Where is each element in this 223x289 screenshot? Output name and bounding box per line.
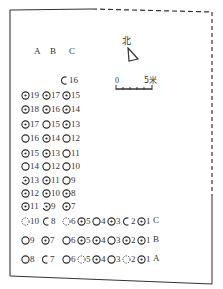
post-hole-marker: 11 <box>21 201 39 212</box>
row-label-c: C <box>153 216 159 225</box>
post-hole-number: 12 <box>51 162 60 171</box>
post-hole-marker: 2 <box>122 216 136 227</box>
post-hole-number: 2 <box>131 236 136 245</box>
post-hole-number: 2 <box>131 255 136 264</box>
post-hole-marker: 3 <box>107 235 121 246</box>
post-hole-marker: 12 <box>21 188 39 199</box>
post-hole-dotted-icon <box>21 105 30 114</box>
post-hole-number: 5 <box>86 217 91 226</box>
post-hole-dotted-icon <box>42 134 51 143</box>
post-hole-dotted-icon <box>21 91 30 100</box>
post-hole-number: 15 <box>51 120 60 129</box>
post-hole-number: 3 <box>116 236 121 245</box>
post-hole-marker: 4 <box>92 254 106 265</box>
post-hole-number: 6 <box>71 255 76 264</box>
post-hole-empty-icon <box>62 162 71 171</box>
scale-bar <box>115 84 155 92</box>
post-hole-marker: 1 <box>137 254 151 265</box>
post-hole-number: 5 <box>86 255 91 264</box>
post-hole-marker: 6 <box>62 254 76 265</box>
post-hole-dotted-icon <box>92 255 101 264</box>
row-label-a: A <box>153 254 160 263</box>
post-hole-partial-icon <box>60 76 69 85</box>
post-hole-empty-icon <box>21 255 30 264</box>
post-hole-marker: 13 <box>62 119 80 130</box>
north-label: 北 <box>122 37 131 46</box>
post-hole-marker: 17 <box>42 90 60 101</box>
post-hole-marker: 1 <box>137 216 151 227</box>
post-hole-partial-icon <box>42 217 51 226</box>
post-hole-empty-icon <box>21 162 30 171</box>
post-hole-marker: 7 <box>62 201 76 212</box>
post-hole-empty-icon <box>62 236 71 245</box>
post-hole-number: 6 <box>71 217 76 226</box>
post-hole-number: 10 <box>51 189 60 198</box>
post-hole-marker: 10 <box>62 161 80 172</box>
post-hole-empty-icon <box>107 255 116 264</box>
post-hole-number: 18 <box>30 105 39 114</box>
post-hole-marker: 11 <box>42 175 60 186</box>
post-hole-empty-icon <box>62 134 71 143</box>
post-hole-empty-icon <box>21 236 30 245</box>
post-hole-number: 11 <box>71 149 80 158</box>
post-hole-marker: 5 <box>77 254 91 265</box>
post-hole-number: 12 <box>30 189 39 198</box>
post-hole-marker: 4 <box>92 216 106 227</box>
post-hole-number: 6 <box>71 236 76 245</box>
post-hole-dotted-icon <box>42 105 51 114</box>
post-hole-dotted-icon <box>77 236 86 245</box>
post-hole-dotted-icon <box>137 255 146 264</box>
post-hole-empty-icon <box>21 134 30 143</box>
post-hole-marker: 10 <box>21 216 39 227</box>
post-hole-number: 10 <box>71 162 80 171</box>
post-hole-number: 17 <box>30 120 39 129</box>
post-hole-marker: 12 <box>62 133 80 144</box>
post-hole-number: 7 <box>50 255 55 264</box>
post-hole-number: 13 <box>51 149 60 158</box>
post-hole-empty-icon <box>42 162 51 171</box>
post-hole-dotted-icon <box>122 236 131 245</box>
post-hole-marker: 4 <box>92 235 106 246</box>
post-hole-empty-icon <box>62 176 71 185</box>
post-hole-dotted-icon <box>137 217 146 226</box>
post-hole-dashed-icon <box>77 255 86 264</box>
post-hole-number: 4 <box>101 217 106 226</box>
post-hole-marker: 15 <box>42 119 60 130</box>
post-hole-number: 1 <box>146 255 151 264</box>
post-hole-partial-icon <box>122 217 131 226</box>
post-hole-dotted-icon <box>62 189 71 198</box>
column-header-b: B <box>50 47 56 56</box>
post-hole-number: 9 <box>30 236 35 245</box>
column-header-a: A <box>34 47 41 56</box>
post-hole-number: 5 <box>86 236 91 245</box>
post-hole-marker: 17 <box>21 119 39 130</box>
post-hole-number: 2 <box>131 217 136 226</box>
post-hole-marker: 13 <box>42 148 60 159</box>
post-hole-dotted-icon <box>62 202 71 211</box>
post-hole-marker: 8 <box>42 216 56 227</box>
post-hole-number: 1 <box>146 236 151 245</box>
post-hole-marker: 12 <box>42 161 60 172</box>
post-hole-number: 13 <box>71 120 80 129</box>
post-hole-number: 16 <box>69 76 78 85</box>
post-hole-marker: 1 <box>137 235 151 246</box>
post-hole-number: 1 <box>146 217 151 226</box>
post-hole-marker: 3 <box>107 216 121 227</box>
post-hole-dotted-icon <box>77 217 86 226</box>
post-hole-number: 11 <box>51 176 60 185</box>
post-hole-marker: 18 <box>21 104 39 115</box>
post-hole-empty-icon <box>107 236 116 245</box>
post-hole-dotted-icon <box>41 236 50 245</box>
post-hole-marker: 14 <box>42 133 60 144</box>
post-hole-broken-dotted-icon <box>21 176 30 185</box>
post-hole-marker: 7 <box>41 235 55 246</box>
post-hole-marker: 7 <box>41 254 55 265</box>
post-hole-number: 11 <box>30 202 39 211</box>
post-hole-number: 9 <box>51 202 56 211</box>
post-hole-marker: 5 <box>77 216 91 227</box>
post-hole-marker: 19 <box>21 90 39 101</box>
post-hole-dotted-icon <box>42 91 51 100</box>
post-hole-dotted-icon <box>42 189 51 198</box>
post-hole-dotted-icon <box>21 149 30 158</box>
post-hole-dotted-icon <box>62 120 71 129</box>
